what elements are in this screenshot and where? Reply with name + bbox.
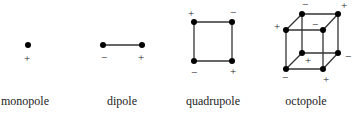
dipole-charge-dot (139, 42, 145, 48)
octopole-charge-dot (299, 11, 305, 17)
minus-sign: − (345, 50, 351, 62)
plus-sign: + (274, 20, 280, 32)
octopole-charge-dot (335, 50, 341, 56)
octopole-edge (323, 14, 338, 30)
minus-sign: − (282, 71, 288, 83)
caption-dipole: dipole (107, 94, 137, 109)
caption-monopole: monopole (1, 94, 49, 109)
caption-quadrupole: quadrupole (186, 94, 240, 109)
charges-layer (25, 11, 341, 72)
minus-sign: − (101, 51, 107, 63)
quadrupole-charge-dot (191, 58, 197, 64)
octopole-charge-dot (320, 66, 326, 72)
plus-sign: + (230, 65, 236, 77)
monopole-charge-dot (25, 42, 31, 48)
octopole-charge-dot (320, 27, 326, 33)
minus-sign: − (230, 6, 236, 18)
plus-sign: + (138, 51, 144, 63)
quadrupole-charge-dot (191, 19, 197, 25)
plus-sign: + (323, 73, 329, 85)
minus-sign: − (191, 66, 197, 78)
octopole-charge-dot (283, 27, 289, 33)
plus-sign: + (341, 0, 347, 11)
octopole-edge (286, 14, 302, 30)
octopole-edge (286, 53, 302, 69)
octopole-charge-dot (335, 11, 341, 17)
plus-sign: + (305, 54, 311, 66)
dipole-charge-dot (100, 42, 106, 48)
plus-sign: + (188, 7, 194, 19)
caption-octopole: octopole (285, 94, 326, 109)
minus-sign: − (312, 18, 318, 30)
minus-sign: − (302, 0, 308, 10)
octopole-edge (323, 53, 338, 69)
quadrupole-charge-dot (229, 19, 235, 25)
plus-sign: + (24, 52, 30, 64)
quadrupole-charge-dot (229, 58, 235, 64)
